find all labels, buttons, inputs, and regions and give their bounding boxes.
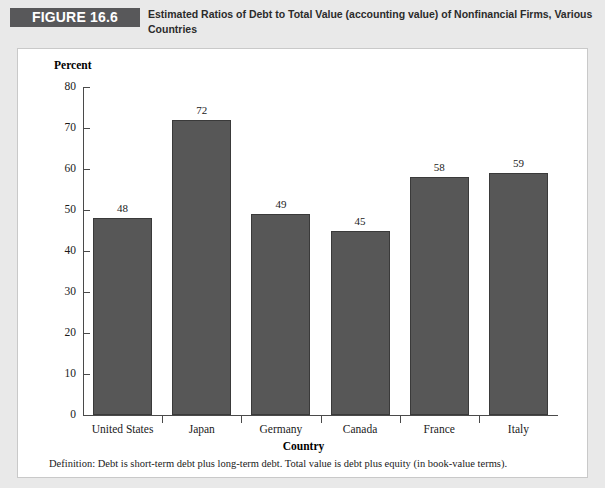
figure-caption: Estimated Ratios of Debt to Total Value … [148, 7, 593, 36]
y-axis-tick-label: 30 [36, 285, 76, 297]
bar-value-label: 72 [172, 104, 232, 116]
bar-value-label: 45 [330, 215, 390, 227]
y-axis-tick [83, 210, 90, 211]
y-axis-tick [83, 251, 90, 252]
y-axis-tick [83, 415, 90, 416]
bar [93, 218, 152, 415]
bar-value-label: 48 [93, 202, 153, 214]
y-axis-title: Percent [54, 59, 91, 71]
y-axis-tick [83, 292, 90, 293]
bar-value-label: 58 [409, 161, 469, 173]
y-axis-tick-label: 80 [36, 80, 76, 92]
x-axis-title: Country [18, 440, 589, 452]
y-axis-tick-label: 10 [36, 367, 76, 379]
y-axis-tick [83, 87, 90, 88]
y-axis-tick-label: 20 [36, 326, 76, 338]
x-axis-tick [321, 416, 322, 423]
x-axis-category-label: Italy [468, 423, 568, 435]
y-axis-tick-label: 40 [36, 244, 76, 256]
y-axis-tick [83, 169, 90, 170]
y-axis-tick [83, 333, 90, 334]
bar [489, 173, 548, 415]
bar [410, 177, 469, 415]
x-axis-tick [162, 416, 163, 423]
y-axis-tick [83, 374, 90, 375]
x-axis-tick [241, 416, 242, 423]
y-axis-tick-label: 0 [36, 408, 76, 420]
x-axis-tick [400, 416, 401, 423]
x-axis-tick [479, 416, 480, 423]
bar-chart-plot: Percent 01020304050607080 487249455859 U… [18, 49, 589, 479]
bar [331, 231, 390, 416]
bar [172, 120, 231, 415]
bar [251, 214, 310, 415]
y-axis-tick-label: 60 [36, 162, 76, 174]
bar-value-label: 49 [251, 198, 311, 210]
definition-note: Definition: Debt is short-term debt plus… [49, 458, 569, 469]
y-axis-tick-label: 50 [36, 203, 76, 215]
figure-header: FIGURE 16.6 Estimated Ratios of Debt to … [0, 0, 605, 44]
y-axis-tick [83, 128, 90, 129]
y-axis-tick-label: 70 [36, 121, 76, 133]
bar-value-label: 59 [488, 157, 548, 169]
chart-panel: Percent 01020304050607080 487249455859 U… [17, 48, 588, 478]
figure-number-badge: FIGURE 16.6 [10, 8, 140, 27]
